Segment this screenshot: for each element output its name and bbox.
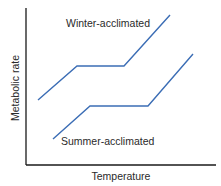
summer-label: Summer-acclimated xyxy=(61,135,155,147)
x-axis-label: Temperature xyxy=(92,170,151,182)
winter-label: Winter-acclimated xyxy=(66,17,150,29)
summer-acclimated-line xyxy=(53,54,193,139)
metabolic-rate-diagram: Winter-acclimated Summer-acclimated Temp… xyxy=(0,0,221,186)
y-axis-label: Metabolic rate xyxy=(9,55,21,121)
